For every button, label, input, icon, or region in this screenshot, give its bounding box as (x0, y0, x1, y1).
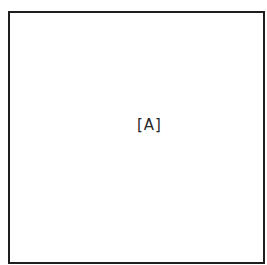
box-label: [A] (137, 116, 162, 134)
diagram-box (8, 11, 265, 264)
